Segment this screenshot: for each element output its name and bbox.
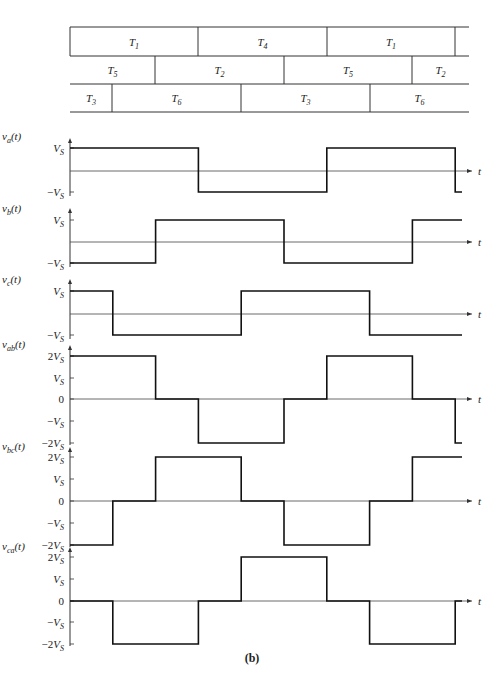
waveform-vca <box>70 557 462 644</box>
time-axis-arrow-icon <box>467 397 472 401</box>
plot-vab: tvab(t)2VSVS0−VS−2VS <box>2 338 482 452</box>
y-axis-title: vab(t) <box>2 338 26 353</box>
time-axis-label: t <box>478 236 482 248</box>
y-tick-label: −VS <box>47 257 64 272</box>
time-axis-arrow-icon <box>467 599 472 603</box>
time-axis-label: t <box>478 495 482 507</box>
time-axis-label: t <box>478 165 482 177</box>
switch-row-1: T1T4T1 <box>129 27 455 56</box>
y-axis-arrow-icon <box>68 447 72 452</box>
y-tick-label: −VS <box>47 329 64 344</box>
switch-label: T5 <box>107 64 117 79</box>
time-axis-arrow-icon <box>467 240 472 244</box>
waveform-vb <box>70 220 462 263</box>
y-axis-title: vbc(t) <box>2 440 25 455</box>
waveform-plots: tva(t)VS−VStvb(t)VS−VStvc(t)VS−VStvab(t)… <box>2 130 482 653</box>
y-tick-label: 0 <box>59 393 65 405</box>
switch-row-3: T3T6T3T6 <box>86 84 425 112</box>
y-axis-title: vc(t) <box>2 273 21 288</box>
figure-caption: (b) <box>245 651 260 665</box>
time-axis-label: t <box>478 595 482 607</box>
y-tick-label: VS <box>53 285 64 300</box>
time-axis-label: t <box>478 393 482 405</box>
time-axis-arrow-icon <box>467 312 472 316</box>
plot-vc: tvc(t)VS−VS <box>2 273 482 344</box>
switch-label: T1 <box>386 36 396 51</box>
switch-label: T2 <box>214 64 224 79</box>
switch-label: T3 <box>300 92 310 107</box>
time-axis-arrow-icon <box>467 169 472 173</box>
time-axis-label: t <box>478 308 482 320</box>
switch-conduction-table: T1T4T1T5T2T5T2T3T6T3T6 <box>70 27 469 112</box>
y-axis-arrow-icon <box>68 208 72 213</box>
time-axis-arrow-icon <box>467 499 472 503</box>
y-tick-label: 0 <box>59 495 65 507</box>
y-axis-title: vb(t) <box>2 202 22 217</box>
waveform-va <box>70 148 462 192</box>
y-tick-label: 0 <box>59 595 65 607</box>
switch-label: T5 <box>343 64 353 79</box>
y-tick-label: −VS <box>47 517 64 532</box>
switch-label: T1 <box>129 36 139 51</box>
y-tick-label: VS <box>53 142 64 157</box>
switch-label: T2 <box>435 64 445 79</box>
waveform-vc <box>70 291 462 335</box>
plot-va: tva(t)VS−VS <box>2 130 482 201</box>
y-tick-label: −VS <box>47 616 64 631</box>
switch-row-2: T5T2T5T2 <box>107 56 445 84</box>
y-tick-label: −VS <box>47 415 64 430</box>
y-axis-title: vca(t) <box>2 540 25 555</box>
y-tick-label: VS <box>53 573 64 588</box>
y-tick-label: VS <box>53 214 64 229</box>
plot-vbc: tvbc(t)2VSVS0−VS−2VS <box>2 440 482 554</box>
switch-label: T6 <box>171 92 181 107</box>
y-tick-label: −VS <box>47 186 64 201</box>
plot-vca: tvca(t)2VSVS0−VS−2VS <box>2 540 482 653</box>
y-axis-title: va(t) <box>2 130 22 145</box>
inverter-waveform-diagram: T1T4T1T5T2T5T2T3T6T3T6 tva(t)VS−VStvb(t)… <box>0 0 504 676</box>
switch-label: T3 <box>86 92 96 107</box>
plot-vb: tvb(t)VS−VS <box>2 202 482 272</box>
y-tick-label: −2VS <box>42 638 64 653</box>
y-axis-arrow-icon <box>68 138 72 143</box>
y-tick-label: VS <box>53 372 64 387</box>
switch-label: T4 <box>257 36 267 51</box>
y-tick-label: −2VS <box>42 437 64 452</box>
switch-label: T6 <box>414 92 424 107</box>
waveform-vbc <box>70 457 462 545</box>
y-axis-arrow-icon <box>68 547 72 552</box>
y-axis-arrow-icon <box>68 279 72 284</box>
y-axis-arrow-icon <box>68 345 72 350</box>
waveform-vab <box>70 356 462 443</box>
y-tick-label: 2VS <box>48 451 64 466</box>
y-tick-label: VS <box>53 473 64 488</box>
y-tick-label: 2VS <box>48 350 64 365</box>
